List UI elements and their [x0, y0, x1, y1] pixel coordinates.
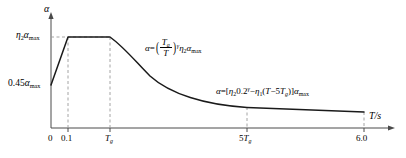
x-tick-label-5tg: 5Tg [239, 134, 251, 143]
response-spectrum-curve [51, 37, 364, 112]
tg-subscript: g [285, 91, 288, 97]
coefficient-value: 0.45 [8, 78, 25, 88]
x-tick-label-six: 6.0 [356, 134, 367, 143]
x-tick-label-tg: Tg [105, 134, 113, 143]
formula1-open-paren: ( [156, 41, 159, 55]
formula1-close-paren: ) [173, 41, 176, 55]
x-tick-label-zero: 0 [48, 134, 53, 143]
alpha-subscript: max [29, 34, 40, 41]
y-tick-label-eta2-alphamax: η2αmax [16, 31, 40, 41]
formula1-equals: = [150, 43, 155, 53]
eta1-subscript: 1 [259, 91, 262, 97]
x-axis-label-unit: s [377, 110, 381, 121]
tg-var: T [244, 133, 249, 143]
alpha-symbol: α [25, 78, 30, 88]
formula1-denominator: T [160, 48, 172, 58]
alpha-subscript: max [191, 48, 201, 54]
alpha-subscript: max [299, 91, 309, 97]
x-axis-arrow [388, 125, 395, 130]
tg-subscript: g [110, 138, 113, 144]
alpha-symbol: α [294, 86, 299, 96]
spectrum-chart-figure: α T/s η2αmax 0.45αmax 0 0.1 Tg 5Tg 6.0 α… [0, 0, 406, 158]
formula-linear-branch: α=[η20.2γ−η1(T−5Tg)]αmax [216, 87, 309, 96]
x-tick-label-point-one: 0.1 [61, 134, 72, 143]
formula2-constant: 0.2 [236, 86, 247, 96]
alpha-subscript: max [30, 82, 41, 89]
y-axis-label: α [44, 4, 49, 14]
eta-subscript: 2 [184, 48, 187, 54]
eta2-subscript: 2 [233, 91, 236, 97]
y-tick-label-0.45-alphamax: 0.45αmax [8, 79, 40, 89]
x-axis-label: T/s [369, 111, 381, 121]
tg-subscript: g [249, 138, 252, 144]
eta-subscript: 2 [21, 34, 24, 41]
eta-symbol: η [179, 43, 183, 53]
formula1-numerator: Tg [160, 37, 172, 48]
formula-power-branch: α=(TgT)γη2αmax [145, 38, 202, 60]
formula1-fraction: TgT [160, 37, 172, 59]
tg-subscript: g [167, 42, 170, 48]
formula1-exponent: γ [177, 43, 179, 49]
formula2-const-exponent: γ [248, 86, 250, 92]
eta-symbol: η [16, 30, 21, 40]
